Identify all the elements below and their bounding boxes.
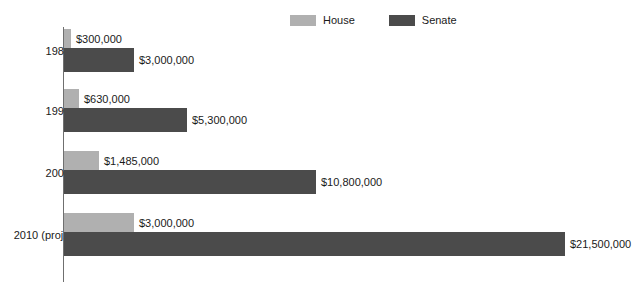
bar-house[interactable] [64,89,79,108]
category-label-2000: 2000 [0,167,70,179]
bar-chart: House Senate 1980$300,000$3,000,0001990$… [0,0,642,286]
bar-group: 2010 (proj.)$3,000,000$21,500,000 [0,213,642,256]
bar-group: 2000$1,485,000$10,800,000 [0,151,642,194]
bar-senate[interactable] [64,232,565,256]
plot-area: 1980$300,000$3,000,0001990$630,000$5,300… [0,0,642,286]
bar-group: 1980$300,000$3,000,000 [0,29,642,72]
bar-house[interactable] [64,29,71,48]
category-label-1990: 1990 [0,105,70,117]
bar-row-house: $300,000 [64,29,642,48]
bar-row-senate: $21,500,000 [64,232,642,256]
bar-group: 1990$630,000$5,300,000 [0,89,642,132]
bar-value-label: $21,500,000 [570,238,631,250]
bar-value-label: $10,800,000 [321,176,382,188]
bar-row-house: $1,485,000 [64,151,642,170]
category-label-2010-proj-: 2010 (proj.) [0,229,70,241]
bar-row-senate: $3,000,000 [64,48,642,72]
bar-value-label: $5,300,000 [192,114,247,126]
bar-senate[interactable] [64,108,187,132]
bar-value-label: $300,000 [76,33,122,45]
bar-value-label: $1,485,000 [104,155,159,167]
bar-row-house: $3,000,000 [64,213,642,232]
bar-value-label: $3,000,000 [139,217,194,229]
bar-house[interactable] [64,151,99,170]
bar-senate[interactable] [64,48,134,72]
bar-row-senate: $5,300,000 [64,108,642,132]
bar-house[interactable] [64,213,134,232]
bar-row-house: $630,000 [64,89,642,108]
bar-value-label: $3,000,000 [139,54,194,66]
bar-value-label: $630,000 [84,93,130,105]
bar-senate[interactable] [64,170,316,194]
category-label-1980: 1980 [0,45,70,57]
bar-row-senate: $10,800,000 [64,170,642,194]
